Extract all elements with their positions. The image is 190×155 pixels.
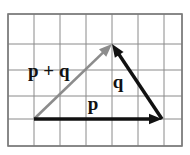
vector-label-p-plus-q: p + q — [28, 60, 70, 81]
vector-label-p: p — [88, 93, 99, 114]
vector-diagram-figure: p + q q p — [0, 0, 190, 155]
vector-label-q: q — [113, 71, 124, 92]
vector-diagram-canvas: p + q q p — [0, 0, 190, 155]
